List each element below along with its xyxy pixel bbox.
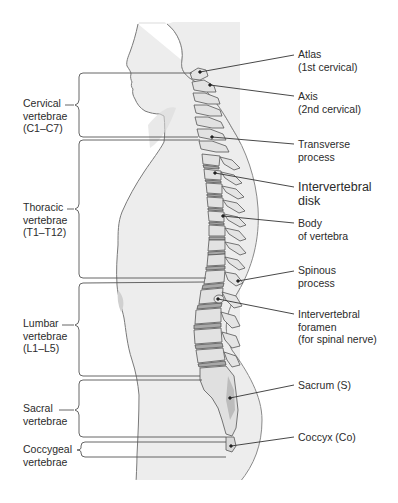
callout-spinous-process: Spinous process <box>298 264 336 289</box>
label-line: vertebrae <box>23 110 67 123</box>
label-line: Sacral <box>23 402 67 415</box>
label-line: Cervical <box>23 97 67 110</box>
label-line: foramen <box>298 321 377 334</box>
spine-diagram <box>0 0 398 503</box>
label-line: Coccygeal <box>23 443 72 456</box>
label-line: (1st cervical) <box>298 61 358 74</box>
label-line: Lumbar <box>23 317 67 330</box>
label-line: (C1–C7) <box>23 122 67 135</box>
label-cervical-vertebrae: Cervical vertebrae (C1–C7) <box>23 97 67 135</box>
label-line: Coccyx (Co) <box>298 431 356 444</box>
callout-axis: Axis (2nd cervical) <box>298 90 361 115</box>
label-line: process <box>298 151 350 164</box>
label-line: vertebrae <box>23 330 67 343</box>
label-line: disk <box>298 194 372 208</box>
label-line: (2nd cervical) <box>298 103 361 116</box>
label-line: Body <box>298 217 348 230</box>
label-line: Spinous <box>298 264 336 277</box>
label-line: (for spinal nerve) <box>298 333 377 346</box>
label-line: Atlas <box>298 48 358 61</box>
label-sacral-vertebrae: Sacral vertebrae <box>23 402 67 427</box>
callout-coccyx: Coccyx (Co) <box>298 431 356 444</box>
label-line: vertebrae <box>23 214 67 227</box>
label-thoracic-vertebrae: Thoracic vertebrae (T1–T12) <box>23 201 67 239</box>
label-coccygeal-vertebrae: Coccygeal vertebrae <box>23 443 72 468</box>
label-lumbar-vertebrae: Lumbar vertebrae (L1–L5) <box>23 317 67 355</box>
callout-atlas: Atlas (1st cervical) <box>298 48 358 73</box>
label-line: vertebrae <box>23 415 67 428</box>
callout-body-of-vertebra: Body of vertebra <box>298 217 348 242</box>
label-line: Intervertebral <box>298 180 372 194</box>
label-line: (L1–L5) <box>23 342 67 355</box>
label-line: (T1–T12) <box>23 226 67 239</box>
label-line: Axis <box>298 90 361 103</box>
label-line: Sacrum (S) <box>298 379 351 392</box>
label-line: of vertebra <box>298 230 348 243</box>
label-line: Intervertebral <box>298 308 377 321</box>
label-line: process <box>298 277 336 290</box>
callout-intervertebral-foramen: Intervertebral foramen (for spinal nerve… <box>298 308 377 346</box>
callout-transverse-process: Transverse process <box>298 138 350 163</box>
callout-intervertebral-disk: Intervertebral disk <box>298 180 372 208</box>
label-line: vertebrae <box>23 456 72 469</box>
label-line: Transverse <box>298 138 350 151</box>
callout-sacrum: Sacrum (S) <box>298 379 351 392</box>
label-line: Thoracic <box>23 201 67 214</box>
